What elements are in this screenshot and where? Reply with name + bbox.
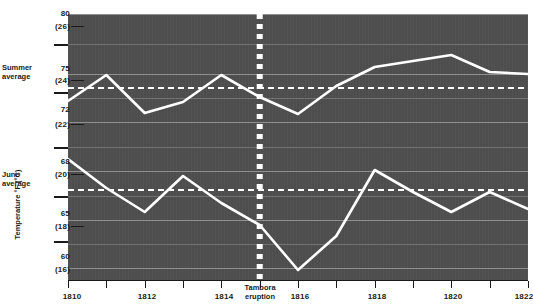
- ytick-label-65f: 65: [36, 209, 70, 218]
- ytick-label-80f: 80: [36, 9, 70, 18]
- ytick-mark-3: [54, 147, 68, 149]
- tambora-eruption-label-line2: eruption: [244, 293, 275, 302]
- xtick-label-1818: 1818: [368, 292, 387, 301]
- series-lines: [68, 14, 528, 280]
- temperature-line-chart: 80 (26) 75 (24) 72 (22) 68 (20) 65 (18) …: [0, 0, 533, 308]
- xtick-label-1810: 1810: [63, 292, 82, 301]
- ytick-mark-1: [54, 44, 68, 46]
- xtick-1813: [183, 281, 184, 288]
- june-average-annotation-line2: average: [2, 180, 42, 189]
- xtick-label-1822: 1822: [515, 292, 533, 301]
- y-axis-title: Temperature °F (°C): [13, 162, 22, 248]
- ytick-label-72f: 72: [36, 105, 70, 114]
- xtick-label-1820: 1820: [444, 292, 463, 301]
- xtick-1814: [221, 281, 222, 288]
- plot-area: [68, 14, 528, 280]
- ytick-mark-5: [54, 241, 68, 243]
- june-average-annotation: June average: [2, 171, 42, 188]
- xtick-1812: [145, 281, 146, 288]
- xtick-label-1812: 1812: [138, 292, 157, 301]
- xtick-1818: [375, 281, 376, 288]
- xtick-1811: [106, 281, 107, 288]
- xtick-label-1816: 1816: [291, 292, 310, 301]
- xtick-1817: [336, 281, 337, 288]
- ytick-label-68f: 68: [36, 157, 70, 166]
- summer-average-annotation: Summer average: [2, 64, 42, 81]
- xtick-1816: [298, 281, 299, 288]
- ytick-label-22c: (22): [36, 120, 70, 129]
- xtick-1820: [451, 281, 452, 288]
- summer-average-annotation-line2: average: [2, 73, 42, 82]
- ytick-mark-4: [54, 196, 68, 198]
- ytick-label-26c: (26): [36, 22, 70, 31]
- xtick-1822: [528, 281, 529, 288]
- summer-average-series: [68, 55, 528, 114]
- ytick-mark-2: [54, 92, 68, 94]
- xtick-1819: [413, 281, 414, 288]
- ytick-label-60f: 60: [36, 252, 70, 261]
- ytick-label-16c: (16): [36, 265, 70, 274]
- june-average-series: [68, 159, 528, 270]
- xtick-label-1814: 1814: [215, 292, 234, 301]
- xtick-1821: [490, 281, 491, 288]
- xtick-1810: [68, 281, 69, 288]
- tambora-eruption-label: Tambora eruption: [244, 284, 275, 301]
- ytick-label-18c: (18): [36, 222, 70, 231]
